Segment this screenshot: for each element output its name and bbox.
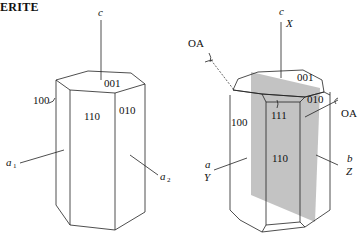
a1-axis-label: a (6, 156, 12, 168)
a1-axis-subscript: 1 (13, 162, 17, 170)
face-label-010-right: 010 (307, 93, 324, 105)
optic-axis-left-line (211, 60, 234, 90)
right-crystal (205, 22, 338, 232)
face-label-010: 010 (119, 104, 136, 116)
optic-axis-label-left: OA (188, 37, 204, 49)
x-axis-label: X (285, 17, 294, 29)
a1-axis-line (20, 150, 64, 163)
left-crystal (20, 20, 158, 230)
a2-axis-subscript: 2 (167, 176, 171, 184)
a2-axis-line (130, 155, 158, 175)
face-label-111: 111 (271, 109, 287, 121)
face-label-001-right: 001 (297, 71, 314, 83)
optic-axis-label-right: OA (341, 107, 357, 119)
a-axis-label-right: a (205, 158, 211, 170)
c-axis-label: c (98, 6, 103, 18)
face-label-100-right: 100 (231, 116, 248, 128)
b-axis-label: b (347, 152, 353, 164)
face-label-001: 001 (104, 77, 121, 89)
top-face-001 (56, 71, 145, 93)
c-axis-label-right: c (279, 5, 284, 17)
z-axis-label: Z (346, 165, 353, 177)
face-label-110-right: 110 (272, 152, 289, 164)
crystal-diagram: c 001 100 110 010 a 1 a 2 c X OA 001 010… (0, 0, 360, 237)
a2-axis-label: a (160, 170, 166, 182)
face-label-100: 100 (33, 94, 50, 106)
face-label-110: 110 (84, 110, 101, 122)
y-axis-label: Y (204, 171, 212, 183)
